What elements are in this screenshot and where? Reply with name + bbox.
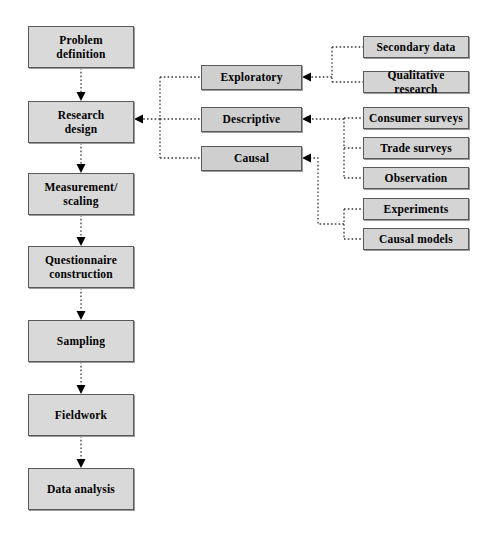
process-step-research-design[interactable]: Researchdesign [28,101,134,143]
process-step-label: Data analysis [41,482,121,496]
process-step-questionnaire-construction[interactable]: Questionnaireconstruction [28,246,134,288]
process-step-label: Questionnaireconstruction [39,253,123,282]
method-label: Trade surveys [377,141,455,155]
process-step-label: Researchdesign [52,108,111,137]
method-consumer-surveys[interactable]: Consumer surveys [363,107,469,129]
arrowhead-measurement [77,164,86,173]
process-step-data-analysis[interactable]: Data analysis [28,468,134,510]
arrowhead-descriptive [302,115,311,124]
process-step-label: Sampling [51,334,111,348]
arrowhead-sampling [77,311,86,320]
arrowhead-data-analysis [77,459,86,468]
method-trade-surveys[interactable]: Trade surveys [363,137,469,159]
arrowhead-exploratory [302,73,311,82]
process-step-sampling[interactable]: Sampling [28,320,134,362]
method-label: Qualitative research [364,68,468,97]
process-step-label: Measurement/scaling [38,180,123,209]
method-secondary-data[interactable]: Secondary data [363,36,469,58]
process-step-problem-definition[interactable]: Problemdefinition [28,26,134,68]
design-type-descriptive[interactable]: Descriptive [201,107,302,132]
method-label: Secondary data [373,40,458,54]
arrowhead-causal [302,154,311,163]
method-label: Experiments [381,202,452,216]
design-type-label: Descriptive [220,112,284,126]
design-type-label: Causal [231,151,272,165]
method-observation[interactable]: Observation [363,167,469,189]
method-qualitative-research[interactable]: Qualitative research [363,71,469,93]
method-label: Consumer surveys [366,111,466,125]
method-label: Causal models [376,232,456,246]
flowchart-canvas: Problemdefinition Researchdesign Measure… [0,0,491,535]
arrowhead-research-design-left [134,115,143,124]
method-label: Observation [382,171,451,185]
arrowhead-fieldwork [77,385,86,394]
design-type-label: Exploratory [217,70,285,84]
process-step-measurement-scaling[interactable]: Measurement/scaling [28,173,134,215]
connector-causal-spine-to-box [308,158,344,224]
process-step-fieldwork[interactable]: Fieldwork [28,394,134,436]
arrowhead-research-design [77,92,86,101]
design-type-exploratory[interactable]: Exploratory [201,65,302,90]
process-step-label: Fieldwork [49,408,113,422]
arrowhead-questionnaire [77,237,86,246]
method-causal-models[interactable]: Causal models [363,228,469,250]
method-experiments[interactable]: Experiments [363,198,469,220]
process-step-label: Problemdefinition [50,33,111,62]
design-type-causal[interactable]: Causal [201,146,302,171]
